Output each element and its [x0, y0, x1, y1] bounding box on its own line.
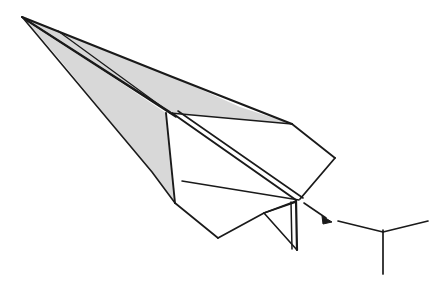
tail-fin-back-edge	[291, 202, 292, 249]
figure-root	[0, 0, 435, 292]
tail-fin-front-edge	[296, 200, 297, 250]
paper-airplane-diagram	[0, 0, 435, 292]
